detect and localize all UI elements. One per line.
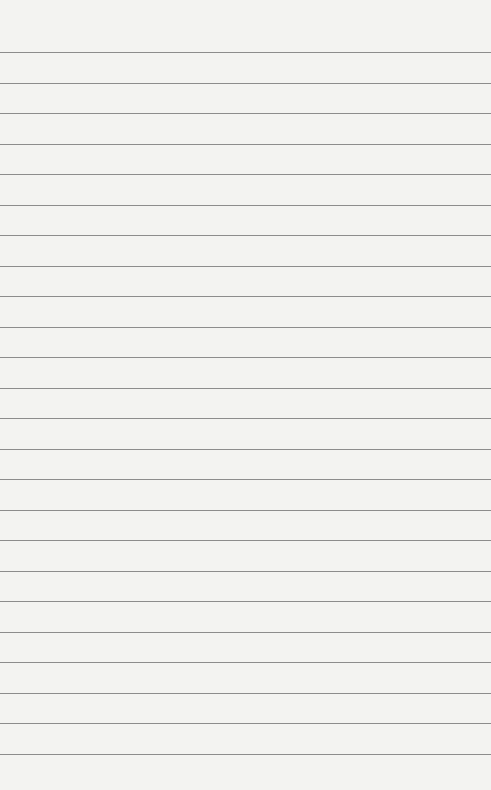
ruled-line xyxy=(0,632,491,633)
ruled-line xyxy=(0,510,491,511)
ruled-line xyxy=(0,357,491,358)
ruled-line xyxy=(0,205,491,206)
ruled-line xyxy=(0,174,491,175)
ruled-line xyxy=(0,235,491,236)
lined-paper-sheet xyxy=(0,0,491,790)
ruled-line xyxy=(0,327,491,328)
ruled-line xyxy=(0,479,491,480)
ruled-line xyxy=(0,449,491,450)
ruled-line xyxy=(0,571,491,572)
ruled-line xyxy=(0,83,491,84)
ruled-line xyxy=(0,52,491,53)
ruled-line xyxy=(0,601,491,602)
ruled-line xyxy=(0,754,491,755)
ruled-line xyxy=(0,388,491,389)
ruled-line xyxy=(0,144,491,145)
ruled-line xyxy=(0,113,491,114)
ruled-line xyxy=(0,418,491,419)
ruled-line xyxy=(0,693,491,694)
ruled-line xyxy=(0,540,491,541)
ruled-line xyxy=(0,266,491,267)
ruled-line xyxy=(0,662,491,663)
ruled-line xyxy=(0,723,491,724)
ruled-line xyxy=(0,296,491,297)
